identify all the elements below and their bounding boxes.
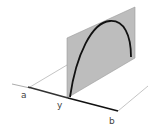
vertical-plane	[67, 7, 135, 98]
guide-line-b	[118, 86, 148, 111]
guide-line-a	[30, 65, 67, 87]
diagram-svg: a y b	[0, 0, 156, 128]
label-b: b	[109, 116, 115, 126]
axis-segment-y-b	[68, 98, 118, 111]
axis-extension	[12, 84, 30, 88]
label-a: a	[21, 90, 27, 100]
diagram-canvas: a y b	[0, 0, 156, 128]
label-y: y	[57, 100, 63, 110]
axis-segment-a-y	[28, 87, 68, 98]
